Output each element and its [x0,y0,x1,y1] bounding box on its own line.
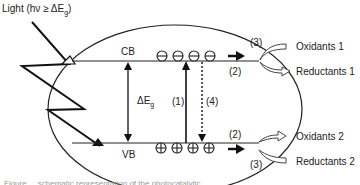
process-3-vb-label: (3) [250,159,262,170]
vb-label: VB [122,149,136,160]
cb-migration-arrow-icon [228,51,245,61]
electrons-group [157,51,215,61]
recombination-arrow-icon [198,62,206,142]
oxidants-2-label: Oxidants 2 [296,131,344,142]
light-zigzag-icon [22,22,100,146]
band-gap-label: ΔEg [137,95,154,109]
reductants-2-label: Reductants 2 [296,156,355,167]
oxidants-1-label: Oxidants 1 [296,41,344,52]
process-1-label: (1) [172,96,184,107]
process-2-cb-label: (2) [229,66,241,77]
process-4-label: (4) [206,96,218,107]
cb-label: CB [121,46,135,57]
band-gap-arrow-icon [124,62,132,142]
process-2-vb-label: (2) [229,129,241,140]
light-label: Light (hν ≥ ΔEg) [2,3,71,17]
photocatalysis-diagram: Light (hν ≥ ΔEg) CB VB ΔEg (1) [0,0,360,185]
reductants-1-label: Reductants 1 [296,66,355,77]
vb-reaction-arrows-icon [259,131,286,163]
vb-migration-arrow-icon [228,144,245,154]
figure-caption-fragment: Figure ... schematic representation of t… [4,179,209,185]
process-3-cb-label: (3) [250,37,262,48]
holes-group [156,143,214,153]
